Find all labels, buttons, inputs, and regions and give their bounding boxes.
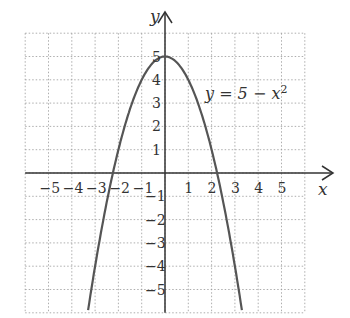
svg-text:−3: −3: [86, 180, 107, 196]
svg-text:1: 1: [152, 142, 161, 158]
x-axis-label: x: [318, 179, 328, 199]
svg-text:−5: −5: [145, 282, 166, 298]
axes: [25, 12, 333, 313]
svg-text:1: 1: [184, 180, 193, 196]
svg-text:−2: −2: [145, 212, 166, 228]
svg-text:−1: −1: [145, 188, 166, 204]
svg-text:4: 4: [152, 72, 161, 88]
svg-text:5: 5: [278, 180, 287, 196]
parabola-plot: −5−4−3−2−11234554321−1−2−3−4−5 y x y = 5…: [0, 0, 350, 318]
svg-text:−5: −5: [40, 180, 61, 196]
svg-text:5: 5: [152, 49, 161, 65]
svg-text:−4: −4: [63, 180, 84, 196]
equation-label: y = 5 − x2: [204, 83, 287, 103]
svg-text:−4: −4: [145, 258, 166, 274]
svg-text:−3: −3: [145, 235, 166, 251]
svg-text:3: 3: [231, 180, 240, 196]
svg-text:4: 4: [254, 180, 263, 196]
y-axis-label: y: [149, 6, 160, 26]
svg-text:2: 2: [152, 118, 161, 134]
svg-text:2: 2: [208, 180, 217, 196]
svg-text:3: 3: [152, 95, 161, 111]
svg-text:−2: −2: [109, 180, 130, 196]
